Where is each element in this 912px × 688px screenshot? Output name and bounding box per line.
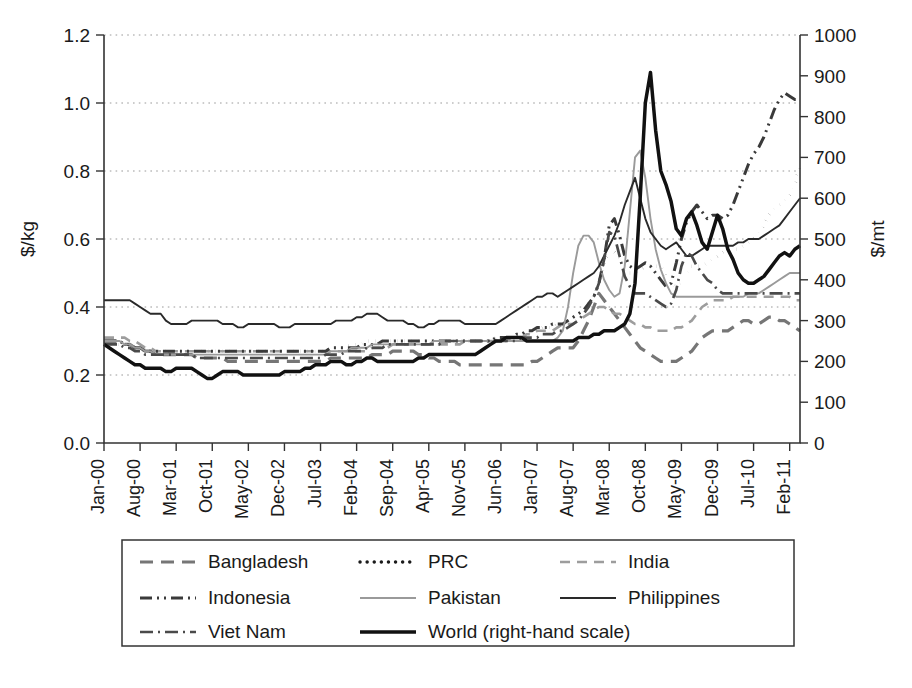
y-tick-label: 0.6: [64, 229, 90, 250]
y2-axis-title: $/mt: [867, 220, 888, 258]
y2-tick-label: 100: [814, 392, 846, 413]
legend-label: World (right-hand scale): [428, 621, 630, 642]
y2-tick-label: 500: [814, 229, 846, 250]
x-tick-label: Jun-06: [485, 459, 505, 514]
legend-label: Bangladesh: [208, 551, 308, 572]
y2-tick-label: 700: [814, 147, 846, 168]
y2-tick-label: 0: [814, 433, 825, 454]
y2-tick-label: 600: [814, 188, 846, 209]
x-tick-label: Dec-02: [268, 459, 288, 517]
series-line-india: [104, 297, 800, 351]
series-lines: [104, 72, 800, 378]
y-axis-title: $/kg: [17, 221, 38, 257]
series-line-philippines: [104, 178, 800, 328]
x-tick-label: Sep-04: [377, 459, 397, 517]
y-axis-tick-labels: 0.00.20.40.60.81.01.2: [64, 25, 91, 454]
y2-tick-label: 900: [814, 66, 846, 87]
y-tick-label: 0.8: [64, 161, 90, 182]
legend-label: Viet Nam: [208, 621, 286, 642]
y-tick-label: 0.4: [64, 297, 91, 318]
legend-label: Philippines: [628, 587, 720, 608]
series-line-prc: [104, 164, 800, 351]
x-tick-label: Mar-08: [593, 459, 613, 516]
x-tick-label: Feb-04: [341, 459, 361, 516]
y2-axis-tick-labels: 01002003004005006007008009001000: [814, 25, 856, 454]
y2-tick-label: 800: [814, 107, 846, 128]
x-tick-label: Jul-10: [738, 459, 758, 508]
x-tick-label: Oct-08: [629, 459, 649, 513]
x-tick-label: May-02: [232, 459, 252, 519]
rice-price-line-chart: 0.00.20.40.60.81.01.2 010020030040050060…: [0, 0, 912, 688]
series-line-viet-nam: [104, 232, 800, 358]
x-tick-label: Dec-09: [702, 459, 722, 517]
legend-label: India: [628, 551, 670, 572]
chart-figure: 0.00.20.40.60.81.01.2 010020030040050060…: [0, 0, 912, 688]
chart-legend: BangladeshPRCIndiaIndonesiaPakistanPhili…: [122, 540, 794, 646]
y-tick-label: 1.2: [64, 25, 90, 46]
legend-label: Indonesia: [208, 587, 291, 608]
y2-tick-label: 1000: [814, 25, 856, 46]
x-tick-label: Oct-01: [196, 459, 216, 513]
legend-label: PRC: [428, 551, 468, 572]
y2-tick-label: 200: [814, 351, 846, 372]
y2-tick-label: 300: [814, 311, 846, 332]
legend-label: Pakistan: [428, 587, 501, 608]
y-tick-label: 1.0: [64, 93, 90, 114]
x-tick-label: Feb-11: [774, 459, 794, 515]
x-tick-label: Aug-00: [124, 459, 144, 517]
x-tick-label: Apr-05: [413, 459, 433, 513]
x-tick-label: Jan-07: [521, 459, 541, 514]
x-tick-label: Aug-07: [557, 459, 577, 517]
x-tick-label: Nov-05: [449, 459, 469, 517]
y-tick-label: 0.2: [64, 365, 90, 386]
x-axis-tick-labels: Jan-00Aug-00Mar-01Oct-01May-02Dec-02Jul-…: [88, 459, 794, 519]
x-tick-label: Mar-01: [160, 459, 180, 516]
y-tick-label: 0.0: [64, 433, 90, 454]
x-tick-label: Jul-03: [305, 459, 325, 508]
series-line-world-right-hand-scale: [104, 72, 800, 378]
y2-tick-label: 400: [814, 270, 846, 291]
x-tick-label: May-09: [665, 459, 685, 519]
x-tick-label: Jan-00: [88, 459, 108, 514]
